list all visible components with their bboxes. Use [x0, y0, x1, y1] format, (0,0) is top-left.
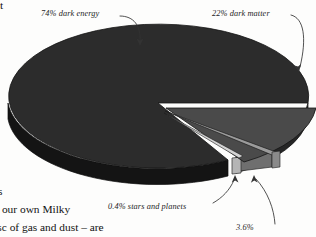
slice-side-stars-planets — [232, 157, 241, 174]
leader-line-other-baryonic — [256, 179, 275, 224]
page-body-text-line-3: lisc of gas and dust – are — [0, 222, 104, 233]
slice-tip-highlight-other-baryonic — [272, 151, 280, 168]
arrowhead-other-baryonic — [251, 175, 258, 183]
leader-line-stars-planets — [213, 180, 234, 203]
callout-label-other-baryonic: 3.6% — [236, 224, 254, 232]
book-page: t — [0, 0, 316, 237]
page-body-text-line-1: s — [0, 186, 2, 197]
leader-line-dark-matter — [291, 15, 304, 67]
callout-label-stars-and-planets: 0.4% stars and planets — [108, 203, 186, 211]
arrowhead-stars-planets — [232, 175, 239, 183]
pie-chart-figure: 74% dark energy 22% dark matter 0.4% sta… — [0, 0, 316, 237]
callout-label-dark-matter: 22% dark matter — [212, 10, 270, 18]
callout-label-dark-energy: 74% dark energy — [41, 10, 99, 18]
page-body-text-line-2: e our own Milky — [0, 204, 70, 215]
